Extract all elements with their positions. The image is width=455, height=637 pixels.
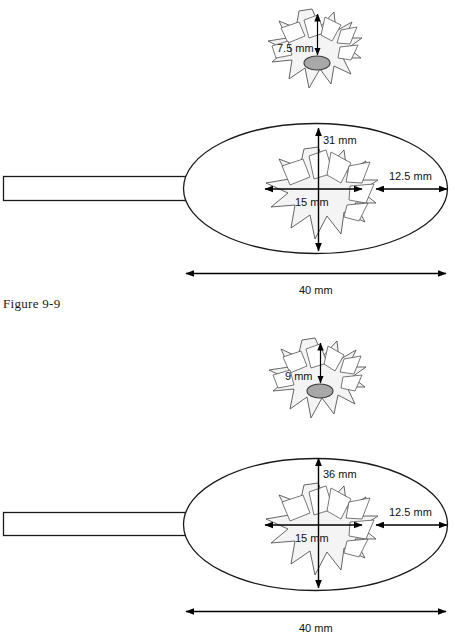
height-dimension-label-bottom: 36 mm [323, 468, 357, 480]
focal-width-dimension-label-bottom: 15 mm [295, 532, 329, 544]
handle-rect-bottom [4, 513, 186, 536]
oval-applicator-top: 31 mm 15 mm 12.5 mm 40 mm [4, 124, 448, 297]
overall-width-dimension-label-top: 40 mm [299, 284, 333, 296]
oval-applicator-bottom: 36 mm 15 mm 12.5 mm 40 mm [4, 458, 448, 634]
margin-dimension-label-top: 12.5 mm [389, 170, 432, 182]
depth-dimension-label-top: 7.5 mm [277, 42, 314, 54]
height-dimension-label-top: 31 mm [323, 134, 357, 146]
focal-zone-detail-bottom: 9 mm [269, 338, 366, 418]
depth-dimension-label-bottom: 9 mm [285, 370, 313, 382]
figure-caption: Figure 9-9 [3, 296, 61, 312]
target-stone-bottom [307, 384, 333, 398]
overall-width-dimension-label-bottom: 40 mm [299, 622, 333, 634]
technical-diagram-canvas: 7.5 mm 31 mm 15 mm [0, 0, 455, 637]
margin-dimension-label-bottom: 12.5 mm [389, 506, 432, 518]
focal-width-dimension-label-top: 15 mm [295, 196, 329, 208]
target-stone-top [304, 56, 330, 70]
focal-zone-detail-top: 7.5 mm [268, 9, 362, 88]
figure-9-9: 7.5 mm 31 mm 15 mm [0, 0, 455, 637]
handle-rect-top [4, 177, 186, 201]
